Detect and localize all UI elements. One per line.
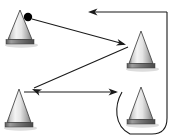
- cone-body: [7, 89, 31, 123]
- cone-path-diagram: [0, 0, 180, 140]
- cone-body: [129, 31, 153, 64]
- cone-base: [6, 40, 34, 45]
- cone-base: [5, 123, 33, 128]
- cone-bottom-left: [4, 89, 37, 131]
- start-dot-marker: [24, 13, 32, 21]
- cone-mid-right: [126, 31, 159, 72]
- cone-top-left: [5, 10, 38, 48]
- segment-2-line: [34, 47, 128, 88]
- segment-1-line: [32, 19, 124, 44]
- diagram-canvas: [0, 0, 180, 140]
- cone-base: [127, 120, 155, 125]
- cone-bottom-right: [126, 87, 159, 128]
- cone-group: [4, 10, 159, 131]
- cone-body: [129, 87, 153, 120]
- cone-base: [127, 64, 155, 69]
